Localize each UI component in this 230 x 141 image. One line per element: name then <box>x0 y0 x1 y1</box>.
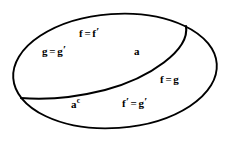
label-set-a: a <box>134 46 140 57</box>
label-f-equals-f-prime-rhs-prime: ′ <box>96 25 99 37</box>
label-set-a-text: a <box>134 45 140 57</box>
label-f-equals-g-rhs: g <box>173 73 179 85</box>
label-f-equals-f-prime: f=f′ <box>79 28 99 39</box>
label-f-prime-equals-g-prime-lhs-prime: ′ <box>126 95 129 107</box>
label-f-prime-equals-g-prime-rhs-prime: ′ <box>144 95 147 107</box>
label-f-equals-g: f=g <box>160 74 179 85</box>
label-g-equals-g-prime-operator: = <box>48 45 57 57</box>
label-set-a-complement-superscript: c <box>77 96 81 105</box>
diagram-figure <box>0 0 230 141</box>
label-f-equals-f-prime-operator: = <box>83 27 92 39</box>
diagram-canvas: f=f′ g=g′ a f=g ac f′=g′ <box>0 0 230 141</box>
label-g-equals-g-prime: g=g′ <box>42 46 66 57</box>
label-set-a-complement: ac <box>71 99 80 110</box>
label-f-equals-g-operator: = <box>164 73 173 85</box>
label-g-equals-g-prime-rhs-prime: ′ <box>63 43 66 55</box>
label-f-prime-equals-g-prime: f′=g′ <box>122 98 147 109</box>
outer-set-ellipse <box>9 7 220 135</box>
label-g-equals-g-prime-lhs: g <box>42 45 48 57</box>
